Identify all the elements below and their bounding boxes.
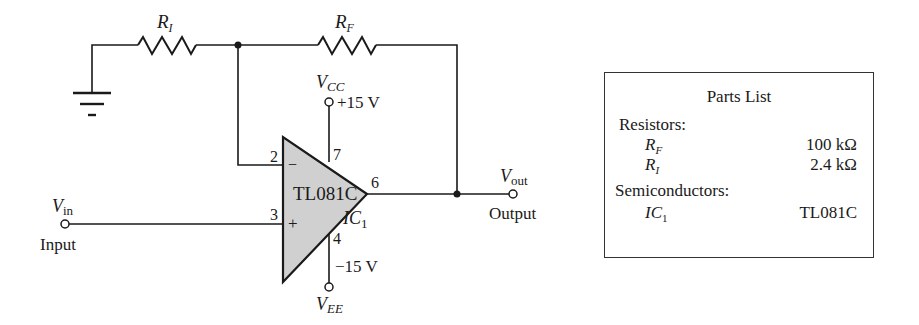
pin-6-label: 6 [371, 174, 379, 191]
ground-icon [73, 45, 138, 115]
vcc-label: VCC [316, 72, 345, 94]
opamp-designator: IC1 [342, 208, 368, 231]
rf-label: RF [334, 11, 355, 35]
noninverting-sign: + [288, 214, 298, 233]
vout-label: Vout [500, 166, 528, 188]
output-label: Output [489, 204, 537, 223]
pin-2-label: 2 [270, 148, 278, 165]
vcc-terminal-icon [325, 98, 333, 106]
vee-terminal-icon [325, 283, 333, 291]
vee-label: VEE [316, 294, 343, 316]
vee-value: −15 V [335, 257, 379, 276]
pin-4-label: 4 [333, 230, 341, 247]
parts-list-title: Parts List [605, 87, 873, 107]
category-semiconductors: Semiconductors: [615, 181, 729, 201]
part-value: 2.4 kΩ [810, 155, 857, 175]
resistor-ri-icon [138, 37, 196, 54]
pin-7-label: 7 [333, 146, 341, 163]
opamp-part-label: TL081C [293, 183, 357, 204]
category-resistors: Resistors: [619, 115, 686, 135]
vin-label: Vin [52, 196, 74, 218]
part-name: RI [645, 155, 659, 180]
ri-label: RI [156, 11, 174, 35]
output-terminal-icon [509, 190, 517, 198]
junction-dot-icon [235, 42, 242, 49]
junction-dot-icon [454, 191, 461, 198]
part-value: 100 kΩ [806, 135, 857, 155]
part-value: TL081C [799, 203, 857, 223]
vcc-value: +15 V [337, 93, 381, 112]
pin-3-label: 3 [270, 206, 278, 223]
input-label: Input [40, 235, 76, 254]
part-name: IC1 [645, 203, 668, 228]
resistor-rf-icon [318, 37, 376, 54]
inverting-sign: − [288, 156, 297, 173]
input-terminal-icon [61, 220, 69, 228]
parts-list-box: Parts List Resistors: RF 100 kΩ RI 2.4 k… [604, 72, 874, 258]
